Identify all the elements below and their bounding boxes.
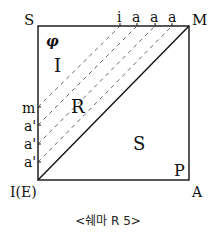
left-edge-label: a' (24, 136, 36, 152)
corner-label-a: A (191, 184, 203, 200)
left-edge-label: a' (24, 154, 36, 170)
top-edge-label: a (150, 9, 158, 25)
region-label-phi: φ (46, 33, 59, 49)
corner-label-ie: I(E) (10, 184, 37, 200)
schema-r-diagram: S M I(E) A φ I R S P i a a a m a' a' a' … (0, 0, 216, 238)
region-label-r: R (71, 96, 85, 117)
left-edge-label: m (22, 100, 35, 116)
corner-label-s: S (24, 11, 34, 29)
top-edge-label: a (132, 9, 140, 25)
region-label-s: S (133, 133, 145, 154)
top-edge-label: i (117, 9, 122, 25)
region-label-p: P (174, 161, 185, 180)
left-edge-label: a' (24, 118, 36, 134)
region-label-i: I (54, 55, 61, 76)
corner-label-m: M (192, 11, 207, 29)
top-edge-label: a (168, 9, 176, 25)
diagram-caption: <쉐마 R 5> (75, 214, 141, 228)
